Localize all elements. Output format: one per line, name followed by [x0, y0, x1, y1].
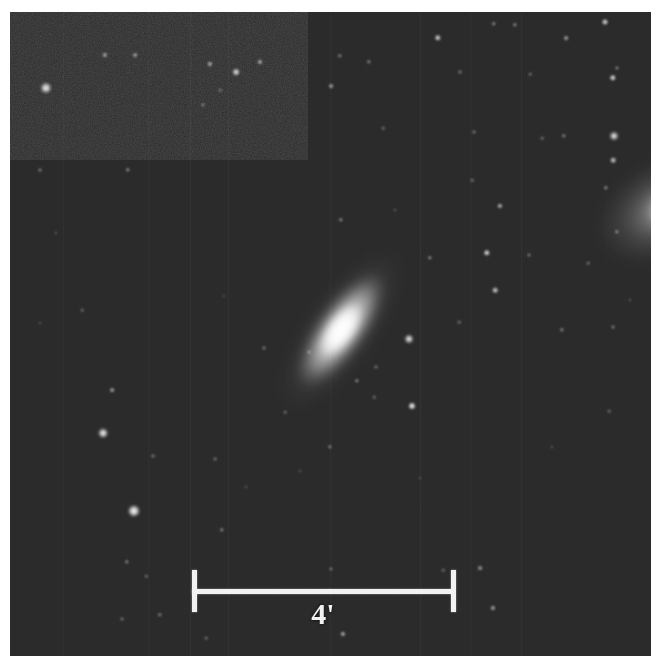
- star: [218, 88, 222, 92]
- film-grain-light: [10, 12, 308, 160]
- star: [213, 457, 217, 461]
- star: [435, 35, 441, 41]
- star: [283, 410, 287, 414]
- star: [550, 445, 553, 448]
- star: [128, 505, 139, 516]
- star: [257, 59, 262, 64]
- star: [497, 203, 502, 208]
- star: [602, 19, 608, 25]
- detector-stripe-pattern: [10, 12, 651, 656]
- star: [329, 84, 334, 89]
- star: [38, 168, 42, 172]
- star: [220, 528, 224, 532]
- detector-stripe-column: [420, 12, 422, 656]
- star: [144, 574, 148, 578]
- star: [492, 287, 498, 293]
- star: [328, 588, 331, 591]
- star: [233, 69, 240, 76]
- scale-bar-tick-right: [451, 570, 456, 612]
- main-galaxy: [256, 231, 426, 429]
- star: [298, 469, 301, 472]
- star: [615, 230, 619, 234]
- star: [38, 321, 41, 324]
- star: [610, 75, 616, 81]
- star: [151, 454, 155, 458]
- galaxy-halo: [256, 231, 426, 429]
- detector-stripe-column: [63, 12, 65, 656]
- detector-stripe-column: [228, 12, 230, 656]
- star: [441, 568, 445, 572]
- scale-bar-label: 4': [311, 597, 334, 631]
- star: [54, 231, 57, 234]
- detector-stripe-column: [330, 12, 332, 656]
- star: [586, 261, 590, 265]
- star: [470, 178, 474, 182]
- star: [611, 325, 615, 329]
- star: [41, 83, 51, 93]
- star: [540, 136, 544, 140]
- star: [607, 409, 611, 413]
- star: [355, 379, 359, 383]
- photographic-plate: 4': [0, 0, 655, 656]
- film-grain-dark: [10, 12, 308, 160]
- star: [405, 335, 413, 343]
- star: [492, 22, 496, 26]
- star: [340, 631, 345, 636]
- star: [484, 250, 490, 256]
- star: [110, 388, 115, 393]
- star: [564, 36, 569, 41]
- scale-bar-tick-left: [192, 570, 197, 612]
- star: [490, 605, 495, 610]
- companion-galaxy-halo: [579, 130, 651, 285]
- star: [307, 350, 311, 354]
- star: [428, 256, 432, 260]
- star: [610, 132, 618, 140]
- detector-stripe-column: [148, 12, 150, 656]
- star: [478, 566, 483, 571]
- star: [457, 320, 461, 324]
- star: [125, 560, 129, 564]
- companion-galaxy-core: [637, 168, 651, 241]
- star: [102, 52, 107, 57]
- star: [80, 308, 84, 312]
- star: [560, 328, 564, 332]
- star: [339, 218, 343, 222]
- star: [513, 23, 517, 27]
- star: [458, 70, 462, 74]
- star: [133, 53, 138, 58]
- galaxy-disk: [281, 260, 401, 401]
- star: [262, 346, 266, 350]
- detector-stripe-column: [521, 12, 523, 656]
- star: [393, 208, 396, 211]
- companion-galaxy: [579, 130, 651, 285]
- star: [610, 157, 616, 163]
- star: [367, 60, 371, 64]
- star: [158, 613, 162, 617]
- star: [126, 168, 130, 172]
- star: [222, 294, 225, 297]
- star: [472, 130, 476, 134]
- star: [527, 253, 531, 257]
- star: [604, 186, 608, 190]
- star: [628, 298, 631, 301]
- star: [338, 54, 342, 58]
- star: [528, 72, 532, 76]
- star: [374, 365, 378, 369]
- star: [562, 134, 566, 138]
- star: [615, 66, 619, 70]
- star: [120, 617, 124, 621]
- star: [207, 61, 212, 66]
- star: [418, 476, 421, 479]
- star: [204, 636, 208, 640]
- star: [201, 103, 205, 107]
- star: [409, 403, 416, 410]
- star: [372, 395, 376, 399]
- star: [99, 429, 108, 438]
- galaxy-core: [310, 295, 371, 365]
- scale-bar-rule: [192, 589, 455, 594]
- star: [328, 445, 332, 449]
- detector-stripe-column: [470, 12, 472, 656]
- star: [244, 485, 247, 488]
- star: [329, 567, 333, 571]
- star: [381, 126, 385, 130]
